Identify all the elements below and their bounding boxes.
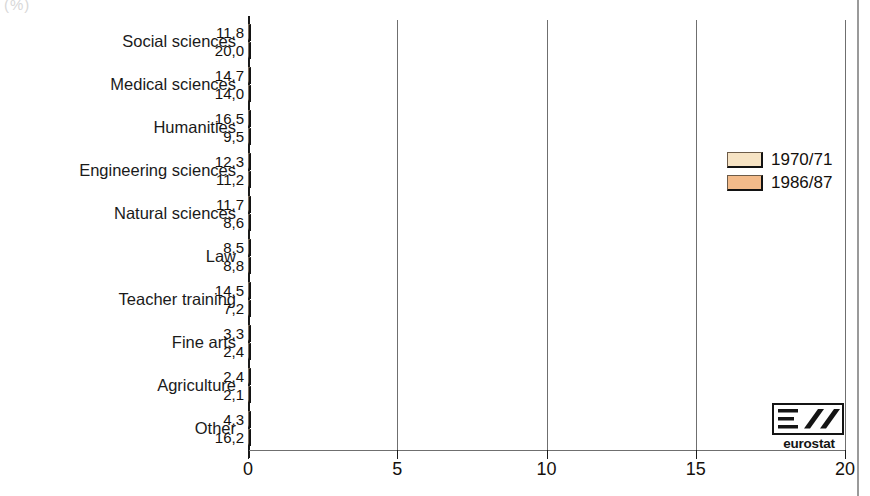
bar-fill-1970-71: 12,3 [248, 153, 251, 170]
bar-value-label: 16,2 [215, 429, 244, 444]
bar-value-label: 11,7 [216, 196, 244, 211]
x-tick-5 [397, 450, 398, 459]
bar[interactable]: 20,0 [248, 42, 845, 59]
bar-value-label: 14,5 [215, 282, 244, 297]
bar[interactable]: 2,4 [248, 368, 320, 385]
eurostat-logo-text: eurostat [772, 436, 846, 451]
category-label: Other [0, 419, 236, 438]
bar-fill-1986-87: 11,2 [248, 171, 251, 188]
bar[interactable]: 8,5 [248, 239, 502, 256]
category-label: Fine arts [0, 333, 236, 352]
bar[interactable]: 2,1 [248, 386, 311, 403]
bar-fill-1970-71: 3,3 [248, 325, 251, 342]
bar-chart: 05101520 Social sciences11,820,0Medical … [0, 0, 870, 496]
bar-fill-1970-71: 11,7 [248, 196, 251, 213]
bar-value-label: 2,1 [223, 386, 244, 401]
bar-fill-1970-71: 4,3 [248, 411, 251, 428]
category-label: Agriculture [0, 376, 236, 395]
bar[interactable]: 3,3 [248, 325, 347, 342]
bar-fill-1986-87: 16,2 [248, 429, 251, 446]
bar-fill-1986-87: 14,0 [248, 85, 251, 102]
bar[interactable]: 16,2 [248, 429, 732, 446]
bar[interactable]: 8,8 [248, 257, 511, 274]
legend-label-1970: 1970/71 [771, 150, 832, 170]
bar-fill-1986-87: 9,5 [248, 128, 251, 145]
page-edge-divider [857, 0, 859, 496]
x-tick-label-5: 5 [392, 459, 402, 480]
bar-value-label: 9,5 [223, 128, 244, 143]
legend-item-1986[interactable]: 1986/87 [727, 173, 855, 193]
category-group: Medical sciences14,714,0 [0, 63, 870, 106]
bar-fill-1970-71: 14,7 [248, 67, 251, 84]
bar[interactable]: 14,0 [248, 85, 666, 102]
category-group: Other4,316,2 [0, 407, 870, 450]
bar-value-label: 3,3 [223, 325, 244, 340]
bar[interactable]: 14,7 [248, 67, 687, 84]
bar-value-label: 4,3 [223, 411, 244, 426]
bar[interactable]: 16,5 [248, 110, 741, 127]
legend-swatch-1970 [727, 152, 763, 168]
bar-fill-1970-71: 14,5 [248, 282, 251, 299]
bar-value-label: 8,5 [223, 239, 244, 254]
legend-swatch-1986 [727, 175, 763, 191]
eurostat-logo: eurostat [772, 403, 846, 451]
category-label: Social sciences [0, 32, 236, 51]
x-tick-10 [547, 450, 548, 459]
category-group: Teacher training14,57,2 [0, 278, 870, 321]
category-group: Law8,58,8 [0, 235, 870, 278]
bar-fill-1970-71: 2,4 [248, 368, 251, 385]
bar-value-label: 2,4 [223, 368, 244, 383]
bar-value-label: 11,2 [216, 171, 244, 186]
bar-fill-1986-87: 2,4 [248, 343, 251, 360]
bar[interactable]: 14,5 [248, 282, 681, 299]
x-tick-label-10: 10 [536, 459, 556, 480]
bar-fill-1986-87: 7,2 [248, 300, 251, 317]
bar-fill-1986-87: 2,1 [248, 386, 251, 403]
bar[interactable]: 9,5 [248, 128, 532, 145]
bar[interactable]: 11,8 [248, 24, 600, 41]
category-group: Natural sciences11,78,6 [0, 192, 870, 235]
bar-value-label: 14,7 [215, 67, 244, 82]
bar-value-label: 12,3 [215, 153, 244, 168]
bar-fill-1986-87: 8,6 [248, 214, 251, 231]
legend-label-1986: 1986/87 [771, 173, 832, 193]
category-label: Engineering sciences [0, 161, 236, 180]
category-group: Humanities16,59,5 [0, 106, 870, 149]
bar-value-label: 20,0 [215, 42, 244, 57]
bar[interactable]: 8,6 [248, 214, 505, 231]
bar[interactable]: 12,3 [248, 153, 615, 170]
bar[interactable]: 11,2 [248, 171, 582, 188]
bar-fill-1986-87: 20,0 [248, 42, 251, 59]
category-label: Humanities [0, 118, 236, 137]
eurostat-mark-svg [774, 405, 842, 433]
x-tick-label-20: 20 [835, 459, 855, 480]
x-tick-15 [696, 450, 697, 459]
category-group: Social sciences11,820,0 [0, 20, 870, 63]
bar-value-label: 7,2 [223, 300, 244, 315]
bar-fill-1970-71: 11,8 [248, 24, 251, 41]
legend-item-1970[interactable]: 1970/71 [727, 150, 855, 170]
x-tick-label-15: 15 [686, 459, 706, 480]
bar-value-label: 11,8 [216, 24, 244, 39]
category-label: Teacher training [0, 290, 236, 309]
category-label: Natural sciences [0, 204, 236, 223]
bar[interactable]: 4,3 [248, 411, 376, 428]
category-group: Fine arts3,32,4 [0, 321, 870, 364]
bar-value-label: 14,0 [215, 85, 244, 100]
bar-value-label: 16,5 [215, 110, 244, 125]
x-tick-20 [845, 450, 846, 459]
bar[interactable]: 11,7 [248, 196, 597, 213]
bar-value-label: 2,4 [223, 343, 244, 358]
bar-value-label: 8,8 [223, 257, 244, 272]
bar-fill-1970-71: 16,5 [248, 110, 251, 127]
x-tick-label-0: 0 [243, 459, 253, 480]
category-group: Agriculture2,42,1 [0, 364, 870, 407]
x-tick-0 [248, 450, 249, 459]
bar[interactable]: 2,4 [248, 343, 320, 360]
category-label: Medical sciences [0, 75, 236, 94]
bar-value-label: 8,6 [223, 214, 244, 229]
bar-fill-1970-71: 8,5 [248, 239, 251, 256]
bar-fill-1986-87: 8,8 [248, 257, 251, 274]
legend: 1970/71 1986/87 [727, 150, 855, 193]
bar[interactable]: 7,2 [248, 300, 463, 317]
